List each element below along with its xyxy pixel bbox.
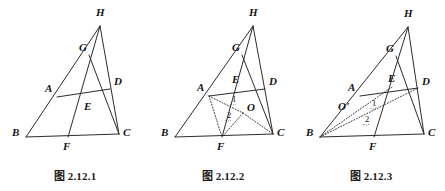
vertex-label-O: O: [247, 101, 255, 113]
figure-panel-3: 12HGAEDO'BFC 图 2.12.3: [296, 0, 445, 191]
dotted-segment-AF: [209, 96, 222, 137]
vertex-label-A: A: [196, 81, 204, 93]
vertex-label-H: H: [403, 7, 413, 19]
angle-label-1: 1: [232, 94, 236, 104]
dotted-segment-BD: [320, 88, 418, 137]
figure-panel-1: HGADEBFC 图 2.12.1: [0, 0, 150, 191]
vertex-label-E: E: [83, 100, 91, 112]
vertex-label-G: G: [232, 41, 240, 53]
angle-label-1: 1: [372, 98, 376, 108]
dotted-segment-BE: [320, 87, 392, 137]
geometry-figure-plate: HGADEBFC 图 2.12.1 12HGAEDOBFC 图 2.12.2 1…: [0, 0, 445, 191]
vertex-label-D: D: [113, 75, 122, 87]
vertex-label-G: G: [79, 41, 87, 53]
vertex-label-D: D: [421, 75, 430, 87]
segment-BC: [320, 134, 424, 137]
vertex-label-F: F: [368, 140, 377, 152]
vertex-label-G: G: [386, 42, 394, 54]
vertex-label-C: C: [277, 126, 285, 138]
figure-1-caption: 图 2.12.1: [0, 167, 150, 183]
vertex-label-A: A: [347, 81, 355, 93]
segment-GC: [89, 55, 119, 134]
vertex-label-H: H: [248, 6, 258, 18]
dotted-segment-AO: [209, 96, 243, 113]
vertex-label-E: E: [387, 72, 395, 84]
vertex-label-F: F: [62, 140, 71, 152]
figure-2-caption: 图 2.12.2: [148, 167, 298, 183]
figure-3-canvas: 12HGAEDO'BFC: [296, 0, 445, 160]
figure-3-caption: 图 2.12.3: [296, 167, 445, 183]
vertex-label-B: B: [11, 126, 19, 138]
vertex-label-A: A: [44, 82, 52, 94]
figure-1-canvas: HGADEBFC: [0, 0, 150, 160]
angle-label-2: 2: [365, 114, 369, 124]
vertex-label-B: B: [305, 126, 313, 138]
vertex-label-H: H: [95, 6, 105, 18]
angle-label-2: 2: [227, 110, 231, 120]
figure-2-canvas: 12HGAEDOBFC: [148, 0, 298, 160]
segment-GC: [242, 55, 273, 134]
segment-GC: [396, 56, 424, 134]
vertex-label-O-prime: O': [338, 100, 349, 112]
vertex-label-D: D: [268, 75, 277, 87]
vertex-label-C: C: [123, 126, 131, 138]
vertex-label-C: C: [428, 126, 436, 138]
vertex-label-B: B: [160, 126, 168, 138]
segment-BH: [175, 26, 253, 137]
vertex-label-F: F: [216, 140, 225, 152]
segment-BH: [26, 26, 100, 137]
vertex-label-E: E: [231, 73, 239, 85]
segment-BC: [26, 134, 119, 137]
figure-panel-2: 12HGAEDOBFC 图 2.12.2: [148, 0, 298, 191]
